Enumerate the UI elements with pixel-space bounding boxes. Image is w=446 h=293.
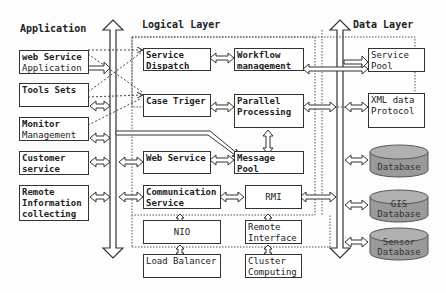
app-web-service: web ServiceApplication <box>19 50 89 74</box>
architecture-diagram: Application Logical Layer Data Layer web… <box>0 0 446 293</box>
remote-interface: RemoteInterface <box>245 220 302 244</box>
service-pool: ServicePool <box>368 48 425 72</box>
cluster-computing: ClusterComputing <box>245 254 302 278</box>
app-customer-service: Customerservice <box>19 151 89 175</box>
app-monitor-management: MonitorManagement <box>19 117 89 141</box>
gis-database-cylinder: GISDatabase <box>370 199 428 219</box>
app-tools-sets: Tools Sets <box>19 83 89 107</box>
case-triger: Case Triger <box>143 94 211 117</box>
sensor-database-cylinder: SensorDatabase <box>370 237 428 257</box>
data-layer-header: Data Layer <box>353 19 413 30</box>
nio: NIO <box>143 220 221 244</box>
xml-data-protocol: XML dataProtocol <box>368 93 425 128</box>
communication-service: CommunicationService <box>143 185 221 209</box>
application-header: Application <box>20 23 86 34</box>
parallel-processing: ParallelProcessing <box>234 94 304 128</box>
web-service: Web Service <box>143 151 211 174</box>
load-balancer: Load Balancer <box>143 254 221 278</box>
rmi: RMI <box>245 185 302 209</box>
database-cylinder: Database <box>370 162 428 172</box>
service-dispatch: ServiceDispatch <box>143 48 211 71</box>
message-pool: Message Pool <box>234 151 304 174</box>
workflow-management: Workflowmanagement <box>234 48 304 71</box>
logical-layer-header: Logical Layer <box>142 19 220 30</box>
app-remote-info: RemoteInformationcollecting <box>19 185 89 221</box>
